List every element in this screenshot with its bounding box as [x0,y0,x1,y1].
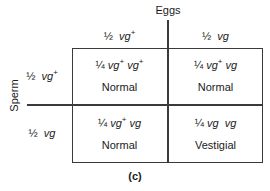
column-header-1-fraction: ½ [202,30,211,42]
cell-2-genotype: ¼ vg+ vg [98,117,141,130]
column-header-1: ½ vg [168,28,263,44]
row-header-1: ½ vg [14,126,70,140]
cell-3-allele2: vg [225,117,237,129]
cell-1-phenotype: Normal [198,81,233,94]
cell-2-fraction: ¼ [98,117,107,129]
cell-0-phenotype: Normal [102,81,137,94]
punnett-cell: ¼ vg+ vg Normal [72,106,167,163]
column-header-1-gene: vg [217,30,229,42]
punnett-cell: ¼ vg+ vg+ Normal [72,48,167,105]
cell-2-allele2: vg [129,117,141,129]
cell-1-genotype: ¼ vg+ vg [194,59,237,72]
row-header-0: ½ vg+ [14,69,70,83]
cell-0-allele2-superscript: + [139,57,144,66]
punnett-cell: ¼ vg+ vg Normal [168,48,263,105]
row-header-1-gene: vg [44,127,56,139]
punnett-cell: ¼ vg vg Vestigial [168,106,263,163]
column-header-0-fraction: ½ [104,30,113,42]
cell-0-genotype: ¼ vg+ vg+ [96,59,144,72]
cell-2-allele1: vg [110,117,122,129]
row-header-1-fraction: ½ [29,127,38,139]
eggs-axis-label: Eggs [136,4,200,17]
punnett-square-figure: Eggs Sperm ½ vg+ ½ vg ½ vg+ ½ vg ¼ vg+ v… [0,0,270,191]
row-header-0-gene: vg [42,70,54,82]
figure-caption: (c) [0,170,270,182]
column-header-0-superscript: + [131,28,136,37]
column-header-0: ½ vg+ [72,28,167,44]
cell-3-phenotype: Vestigial [195,139,236,152]
cell-0-allele2: vg [127,59,139,71]
column-header-0-gene: vg [119,30,131,42]
cell-1-fraction: ¼ [194,59,203,71]
cell-2-phenotype: Normal [102,139,137,152]
cell-0-fraction: ¼ [96,59,105,71]
cell-1-allele2: vg [225,59,237,71]
cell-3-allele1: vg [207,117,219,129]
cell-3-genotype: ¼ vg vg [195,117,237,130]
row-header-0-superscript: + [53,68,58,77]
row-header-0-fraction: ½ [26,70,35,82]
cell-0-allele1: vg [108,59,120,71]
cell-3-fraction: ¼ [195,117,204,129]
cell-1-allele1: vg [206,59,218,71]
